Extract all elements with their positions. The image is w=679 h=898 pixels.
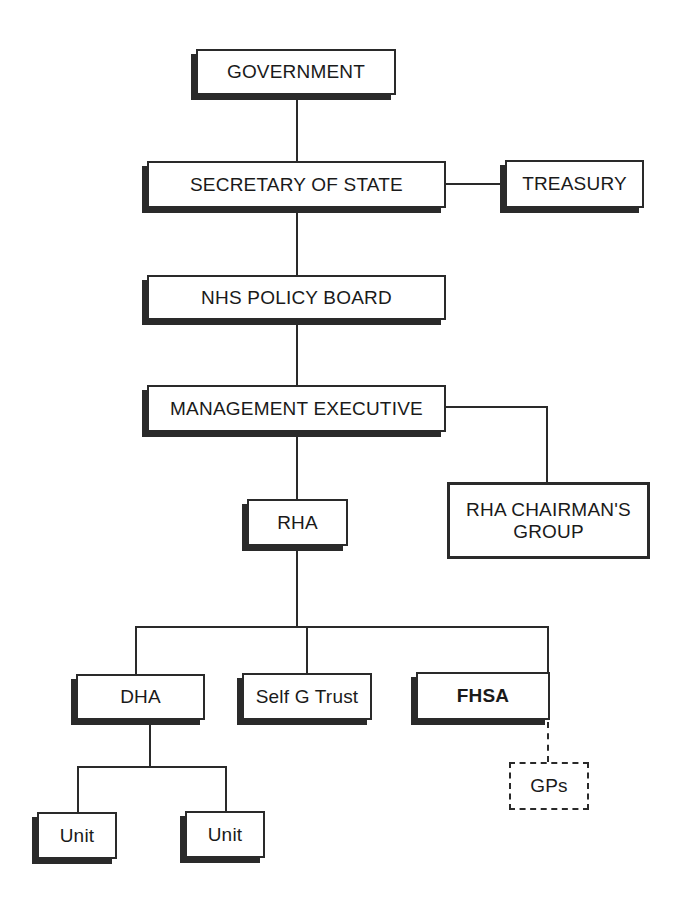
node-label: DHA — [120, 686, 161, 708]
node-label-line2: GROUP — [513, 521, 584, 543]
node-label: GPs — [530, 775, 568, 797]
node-label: Unit — [60, 825, 95, 847]
node-label: GOVERNMENT — [227, 61, 365, 83]
node-rha: RHA — [247, 499, 348, 546]
node-secretary-of-state: SECRETARY OF STATE — [147, 161, 446, 208]
node-unit-2: Unit — [185, 811, 265, 858]
connector-secretary-policy-board — [296, 208, 298, 275]
node-self-g-trust: Self G Trust — [242, 673, 372, 720]
node-label: MANAGEMENT EXECUTIVE — [170, 398, 423, 420]
connector-bus-unit-1 — [77, 766, 79, 812]
dha-children-bus — [77, 766, 227, 768]
node-label: NHS POLICY BOARD — [201, 287, 392, 309]
connector-bus-self-g-trust — [306, 626, 308, 674]
connector-policy-board-management — [296, 320, 298, 385]
connector-bus-unit-2 — [225, 766, 227, 812]
node-label: SECRETARY OF STATE — [190, 174, 403, 196]
connector-rha-bus — [296, 546, 298, 628]
node-rha-chairmans-group: RHA CHAIRMAN'S GROUP — [447, 482, 650, 559]
node-fhsa: FHSA — [416, 672, 550, 720]
node-label: TREASURY — [522, 173, 627, 195]
node-government: GOVERNMENT — [196, 49, 396, 95]
connector-secretary-treasury — [446, 183, 505, 185]
node-label-line1: RHA CHAIRMAN'S — [466, 499, 631, 521]
connector-management-rha — [296, 432, 298, 499]
connector-fhsa-gps-dashed — [547, 722, 549, 762]
connector-dha-bus — [149, 720, 151, 767]
node-unit-1: Unit — [37, 812, 117, 859]
node-treasury: TREASURY — [505, 160, 644, 208]
node-label: Unit — [208, 824, 243, 846]
rha-children-bus — [135, 626, 549, 628]
node-label: Self G Trust — [256, 686, 359, 708]
connector-management-chairmans-v — [546, 406, 548, 482]
connector-management-chairmans-h — [446, 406, 548, 408]
node-label: FHSA — [457, 685, 510, 707]
node-label: RHA — [277, 512, 318, 534]
connector-government-secretary — [296, 95, 298, 161]
connector-bus-dha — [135, 626, 137, 674]
node-dha: DHA — [76, 674, 205, 720]
node-gps: GPs — [509, 762, 589, 810]
node-nhs-policy-board: NHS POLICY BOARD — [147, 275, 446, 320]
connector-bus-fhsa — [547, 626, 549, 674]
node-management-executive: MANAGEMENT EXECUTIVE — [147, 385, 446, 432]
